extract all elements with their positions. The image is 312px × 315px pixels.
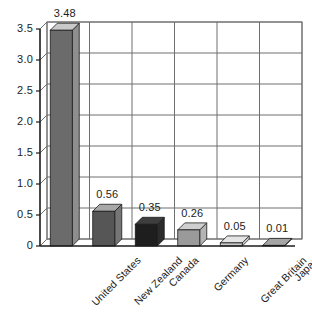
y-axis-tick-label: 0 [0, 240, 33, 251]
bar-front-face [50, 30, 72, 246]
bar-front-face [135, 224, 157, 246]
y-axis-tick-label: 2.5 [0, 85, 33, 96]
gridline-depth-connector [40, 146, 47, 153]
bar-front-face [178, 230, 200, 246]
bar-5 [263, 238, 292, 246]
bar-value-label: 0.26 [172, 208, 212, 219]
bar-value-label: 3.48 [45, 8, 85, 19]
y-axis-tick-label: 2.0 [0, 116, 33, 127]
bar-value-label: 0.01 [257, 223, 297, 234]
gridline-depth-connector [40, 208, 47, 215]
bar-value-label: 0.56 [87, 189, 127, 200]
gridline-depth-connector [40, 53, 47, 60]
gridline-depth-connector [40, 239, 47, 246]
y-axis-tick-label: 3.0 [0, 54, 33, 65]
gridline-depth-connector [40, 22, 47, 29]
bar-2 [135, 217, 164, 246]
bar-chart: 00.51.01.52.02.53.03.5 3.480.560.350.260… [0, 0, 312, 315]
bar-front-face [93, 211, 115, 246]
y-axis-tick-label: 3.5 [0, 23, 33, 34]
y-axis-tick-label: 0.5 [0, 209, 33, 220]
gridline-depth-connector [40, 177, 47, 184]
gridline-depth-connector [40, 115, 47, 122]
bar-0 [50, 23, 79, 246]
bar-1 [93, 204, 122, 246]
bar-value-label: 0.05 [215, 221, 255, 232]
y-axis-tick-label: 1.0 [0, 178, 33, 189]
gridline-depth-connector [40, 84, 47, 91]
bar-3 [178, 223, 207, 246]
bar-side-face [72, 23, 79, 246]
chart-canvas [0, 0, 312, 315]
y-axis-tick-label: 1.5 [0, 147, 33, 158]
bar-value-label: 0.35 [130, 202, 170, 213]
